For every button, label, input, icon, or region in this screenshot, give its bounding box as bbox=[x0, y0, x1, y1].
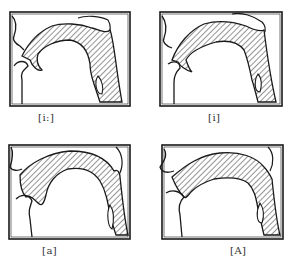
vocal-tract-illustration bbox=[0, 0, 146, 133]
vowel-label: [A] bbox=[230, 245, 247, 256]
vowel-diagram-turned-v: [A] bbox=[146, 133, 292, 266]
vowel-diagram-a: [a] bbox=[0, 133, 146, 266]
vocal-tract-illustration bbox=[146, 133, 292, 267]
vowel-label: [i:] bbox=[38, 112, 54, 123]
vocal-tract-illustration bbox=[0, 133, 146, 267]
vowel-diagram-i-short: [i] bbox=[146, 0, 292, 133]
vowel-label: [i] bbox=[208, 112, 221, 123]
vowel-label: [a] bbox=[42, 245, 57, 256]
vowel-diagram-i-long: [i:] bbox=[0, 0, 146, 133]
